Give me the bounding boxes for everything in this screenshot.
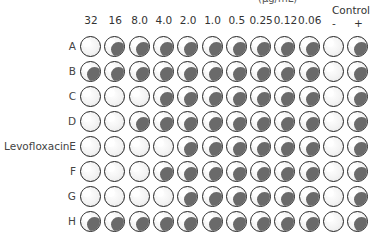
bacterial-pellet-icon: [111, 67, 125, 82]
well-growth: [129, 211, 150, 232]
well-growth: [347, 111, 368, 132]
well-growth: [347, 86, 368, 107]
well-no-growth: [323, 161, 344, 182]
bacterial-pellet-icon: [233, 117, 247, 132]
well-growth: [299, 186, 320, 207]
well-growth: [129, 36, 150, 57]
bacterial-pellet-icon: [136, 67, 150, 82]
well-growth: [153, 86, 174, 107]
bacterial-pellet-icon: [354, 67, 368, 82]
well-growth: [299, 86, 320, 107]
well-no-growth: [104, 136, 125, 157]
column-header-concentration: 0.5: [225, 14, 249, 26]
bacterial-pellet-icon: [257, 217, 271, 232]
row-label: F: [62, 165, 76, 177]
well-growth: [177, 61, 198, 82]
row-label: G: [62, 190, 76, 202]
bacterial-pellet-icon: [281, 217, 295, 232]
well-growth: [299, 111, 320, 132]
bacterial-pellet-icon: [257, 192, 271, 207]
well-no-growth: [80, 161, 101, 182]
well-growth: [202, 111, 223, 132]
bacterial-pellet-icon: [281, 42, 295, 57]
well-growth: [347, 186, 368, 207]
well-shine: [325, 63, 334, 72]
well-shine: [106, 88, 115, 97]
well-growth: [226, 186, 247, 207]
bacterial-pellet-icon: [306, 67, 320, 82]
drug-label: Levofloxacin: [4, 140, 69, 152]
well-growth: [250, 86, 271, 107]
well-growth: [226, 136, 247, 157]
well-shine: [106, 113, 115, 122]
bacterial-pellet-icon: [281, 67, 295, 82]
well-no-growth: [80, 36, 101, 57]
well-growth: [299, 36, 320, 57]
well-growth: [153, 111, 174, 132]
well-no-growth: [104, 111, 125, 132]
well-growth: [274, 36, 295, 57]
bacterial-pellet-icon: [184, 217, 198, 232]
bacterial-pellet-icon: [306, 192, 320, 207]
well-growth: [299, 211, 320, 232]
well-growth: [299, 136, 320, 157]
column-header-concentration: 0.12: [273, 14, 297, 26]
bacterial-pellet-icon: [306, 117, 320, 132]
row-label: H: [62, 215, 76, 227]
bacterial-pellet-icon: [306, 217, 320, 232]
well-no-growth: [104, 86, 125, 107]
bacterial-pellet-icon: [354, 117, 368, 132]
bacterial-pellet-icon: [257, 92, 271, 107]
well-growth: [177, 36, 198, 57]
well-growth: [202, 211, 223, 232]
well-no-growth: [129, 136, 150, 157]
bacterial-pellet-icon: [281, 142, 295, 157]
well-shine: [325, 38, 334, 47]
well-growth: [226, 36, 247, 57]
bacterial-pellet-icon: [233, 217, 247, 232]
well-shine: [131, 138, 140, 147]
bacterial-pellet-icon: [306, 167, 320, 182]
bacterial-pellet-icon: [257, 42, 271, 57]
bacterial-pellet-icon: [87, 217, 101, 232]
well-growth: [153, 211, 174, 232]
control-title: Control: [328, 4, 374, 16]
well-no-growth: [323, 136, 344, 157]
bacterial-pellet-icon: [136, 217, 150, 232]
well-growth: [250, 61, 271, 82]
well-shine: [131, 88, 140, 97]
well-growth: [226, 161, 247, 182]
bacterial-pellet-icon: [160, 117, 174, 132]
well-growth: [250, 161, 271, 182]
well-growth: [250, 186, 271, 207]
column-header-concentration: 32: [79, 14, 103, 26]
well-no-growth: [80, 86, 101, 107]
well-growth: [129, 111, 150, 132]
bacterial-pellet-icon: [209, 192, 223, 207]
bacterial-pellet-icon: [354, 142, 368, 157]
bacterial-pellet-icon: [160, 217, 174, 232]
well-shine: [155, 138, 164, 147]
well-no-growth: [104, 161, 125, 182]
bacterial-pellet-icon: [209, 117, 223, 132]
bacterial-pellet-icon: [184, 92, 198, 107]
well-shine: [82, 163, 91, 172]
well-shine: [82, 188, 91, 197]
well-growth: [299, 61, 320, 82]
bacterial-pellet-icon: [160, 167, 174, 182]
well-growth: [274, 136, 295, 157]
well-no-growth: [323, 111, 344, 132]
well-growth: [177, 211, 198, 232]
bacterial-pellet-icon: [281, 92, 295, 107]
bacterial-pellet-icon: [233, 142, 247, 157]
well-growth: [250, 136, 271, 157]
well-no-growth: [129, 186, 150, 207]
column-header-concentration: 4.0: [152, 14, 176, 26]
well-no-growth: [323, 36, 344, 57]
well-shine: [325, 113, 334, 122]
well-shine: [325, 138, 334, 147]
column-header-control: +: [346, 17, 370, 29]
well-no-growth: [323, 186, 344, 207]
well-no-growth: [153, 136, 174, 157]
well-growth: [274, 161, 295, 182]
